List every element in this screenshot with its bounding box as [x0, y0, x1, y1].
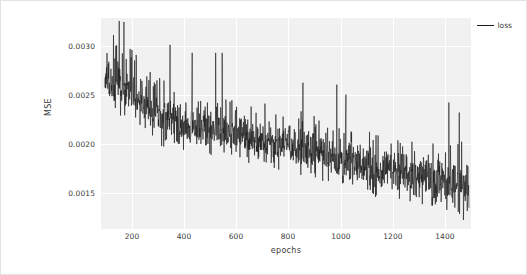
x-tick-label-600: 600 — [218, 232, 254, 241]
x-tick-label-1000: 1000 — [323, 232, 359, 241]
legend-line-swatch-loss — [477, 25, 494, 26]
loss-series-line — [101, 18, 471, 229]
x-tick-label-200: 200 — [114, 232, 150, 241]
x-axis-label: epochs — [101, 246, 471, 255]
x-tick-label-1400: 1400 — [427, 232, 463, 241]
legend-label-loss: loss — [498, 21, 513, 30]
plot-area — [101, 18, 471, 229]
legend: loss — [475, 20, 515, 31]
y-tick-label-3: 0.0015 — [59, 189, 95, 198]
y-tick-label-2: 0.0020 — [59, 140, 95, 149]
x-tick-label-400: 400 — [166, 232, 202, 241]
y-tick-label-1: 0.0025 — [59, 91, 95, 100]
y-axis-label: MSE — [44, 98, 53, 116]
x-tick-label-800: 800 — [270, 232, 306, 241]
y-tick-label-0: 0.0030 — [59, 42, 95, 51]
figure-container: MSE 0.0030 0.0025 0.0020 0.0015 200 400 … — [0, 0, 527, 275]
x-tick-label-1200: 1200 — [375, 232, 411, 241]
